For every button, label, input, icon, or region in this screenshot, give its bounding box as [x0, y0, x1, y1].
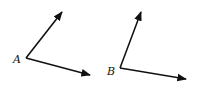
angle-b-label: B: [106, 65, 115, 78]
angle-b-ray-up: [120, 12, 141, 68]
angle-b-ray-right: [120, 68, 186, 79]
angles-diagram: A B: [0, 0, 197, 86]
angle-a-ray-up: [26, 12, 62, 58]
angle-a: A: [12, 12, 90, 75]
angle-a-ray-right: [26, 58, 90, 75]
angle-a-label: A: [12, 53, 21, 66]
angle-b: B: [106, 12, 186, 79]
